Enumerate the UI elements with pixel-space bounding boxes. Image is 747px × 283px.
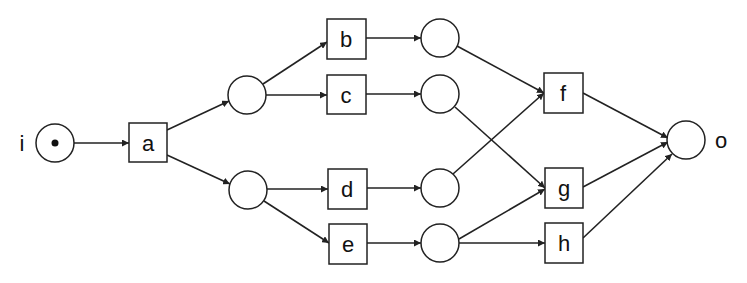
arc-p3-f <box>457 46 544 93</box>
place-p6[interactable] <box>421 224 459 262</box>
place-o[interactable] <box>667 121 705 159</box>
arc-g-o <box>583 142 668 187</box>
arc-h-o <box>583 154 672 238</box>
arc-p1-b <box>263 42 327 84</box>
transitions-layer <box>129 19 583 264</box>
petri-net-diagram: i o a b c d e f g h <box>0 0 747 283</box>
labels-layer: i o a b c d e f g h <box>20 27 728 257</box>
arc-p2-e <box>264 201 329 243</box>
arc-a-p1 <box>167 101 229 130</box>
label-transition-g: g <box>558 176 570 201</box>
label-transition-h: h <box>558 231 570 256</box>
arc-p6-g <box>459 189 545 239</box>
token-dot <box>52 140 59 147</box>
place-p4[interactable] <box>421 75 459 113</box>
label-place-i: i <box>20 131 25 156</box>
label-transition-a: a <box>142 131 155 156</box>
label-transition-c: c <box>341 83 352 108</box>
arc-p4-g <box>455 107 545 188</box>
label-transition-e: e <box>342 232 354 257</box>
label-transition-f: f <box>560 81 567 106</box>
arc-a-p2 <box>167 155 230 184</box>
label-transition-d: d <box>341 177 353 202</box>
place-p5[interactable] <box>421 169 459 207</box>
label-place-o: o <box>715 128 727 153</box>
arc-f-o <box>583 93 668 138</box>
place-p2[interactable] <box>229 171 267 209</box>
label-transition-b: b <box>340 27 352 52</box>
place-p3[interactable] <box>421 19 459 57</box>
place-p1[interactable] <box>228 76 266 114</box>
arc-p5-f <box>453 93 544 174</box>
